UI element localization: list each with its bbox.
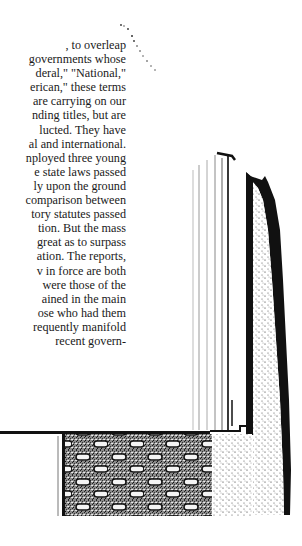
- text-line: v in force are both: [0, 264, 126, 278]
- text-line: lucted. They have: [0, 123, 126, 137]
- text-line: recent govern-: [0, 334, 126, 348]
- brick-base: [58, 434, 252, 516]
- text-line: requently manifold: [0, 320, 126, 334]
- text-line: tory statutes passed: [0, 207, 126, 221]
- body-text-column: , to overleap governments whose deral," …: [0, 38, 126, 348]
- text-line: ained in the main: [0, 292, 126, 306]
- text-line: tion. But the mass: [0, 221, 126, 235]
- column-right: [246, 172, 291, 515]
- text-line: were those of the: [0, 278, 126, 292]
- text-line: e state laws passed: [0, 165, 126, 179]
- text-line: ation. The reports,: [0, 249, 126, 263]
- text-line: erican," these terms: [0, 80, 126, 94]
- text-line: al and international.: [0, 137, 126, 151]
- base-ledge: [0, 400, 248, 436]
- text-line: ly upon the ground: [0, 179, 126, 193]
- text-line: great as to surpass: [0, 235, 126, 249]
- text-line: nployed three young: [0, 151, 126, 165]
- text-line: deral," "National,": [0, 66, 126, 80]
- pilaster-left: [193, 153, 235, 430]
- text-line: governments whose: [0, 52, 126, 66]
- text-line: comparison between: [0, 193, 126, 207]
- text-line: , to overleap: [0, 38, 126, 52]
- text-line: are carrying on our: [0, 94, 126, 108]
- text-line: nding titles, but are: [0, 108, 126, 122]
- text-line: ose who had them: [0, 306, 126, 320]
